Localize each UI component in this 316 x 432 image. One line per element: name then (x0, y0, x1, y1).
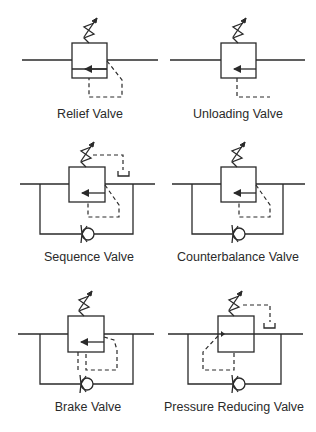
counterbalance-valve-label: Counterbalance Valve (177, 250, 299, 264)
counterbalance-valve-symbol (172, 142, 305, 243)
unloading-valve-label: Unloading Valve (193, 107, 283, 121)
relief-valve-label: Relief Valve (57, 107, 123, 121)
unloading-valve-symbol (170, 18, 305, 97)
pressure-reducing-valve-symbol (168, 291, 303, 393)
sequence-valve-label: Sequence Valve (44, 250, 134, 264)
valve-symbols-diagram (0, 0, 316, 432)
sequence-valve-symbol (20, 142, 155, 243)
pressure-reducing-valve-label: Pressure Reducing Valve (164, 400, 304, 414)
relief-valve-symbol (22, 18, 158, 97)
brake-valve-symbol (18, 291, 154, 393)
brake-valve-label: Brake Valve (55, 400, 121, 414)
